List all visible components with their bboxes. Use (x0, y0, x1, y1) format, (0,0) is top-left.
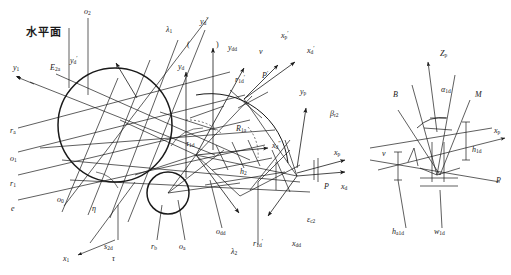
axis-xp-prime (244, 65, 278, 99)
label-e: e (11, 205, 15, 213)
label-xd-dprime: xd″ (272, 140, 281, 150)
label-paren-right: ) (216, 41, 219, 49)
label-tau-1d: τ1d (186, 140, 194, 148)
right-detail-group (370, 62, 505, 228)
spoke-3 (168, 155, 196, 193)
label-xdd: xdd (292, 240, 301, 248)
label-o0: o0 (57, 196, 64, 204)
label-h1d: h1d (472, 146, 482, 154)
spoke-1 (120, 120, 196, 155)
axis-arrows-group (116, 48, 345, 216)
label-P-prime: P′ (262, 70, 268, 80)
line-ra (18, 72, 230, 128)
label-ra: ra (10, 127, 16, 135)
label-yp: yp (300, 88, 306, 96)
axis-xp-right (378, 138, 505, 170)
label-P-left: P (324, 183, 329, 191)
label-ha1d: ha1d (392, 228, 404, 236)
technical-diagram: 水平面 o2 yd′ λ1 yd″ ( ) ydd y1 E2a yd r1d′… (0, 0, 511, 275)
left-construction-lines (16, 18, 310, 255)
axis-xd-mid (297, 172, 345, 176)
label-r1d-prime-top: r1d′ (235, 74, 245, 84)
axis-v-mid (297, 160, 345, 173)
label-eta: η (92, 205, 96, 213)
label-s2d: s2d (104, 243, 113, 251)
axis-xd-prime (244, 62, 295, 99)
label-v-top: v (259, 48, 263, 56)
circles-group (58, 68, 447, 214)
line-e (18, 145, 265, 200)
label-v-mid: v (382, 150, 386, 158)
label-odd: odd (216, 228, 226, 236)
arrow-y1 (17, 77, 34, 84)
label-lambda1: λ1 (166, 26, 172, 34)
label-oa: oa (179, 243, 185, 251)
line-o1 (18, 95, 245, 152)
label-beta-r2: βr2 (330, 110, 339, 118)
tick-r5 (424, 128, 452, 130)
label-xd-mid: xd (341, 183, 347, 191)
tick-r3 (408, 148, 414, 162)
label-lambda2: λ2 (231, 248, 237, 256)
axis-Zp (428, 62, 437, 132)
label-R1a: R1a (236, 125, 246, 133)
label-paren-left: ( (187, 41, 190, 49)
label-o2: o2 (84, 8, 91, 16)
label-tau: τ (112, 255, 115, 263)
label-ydd: ydd (228, 44, 237, 52)
label-h2: h2 (240, 168, 247, 176)
label-xd-prime: xd′ (307, 45, 315, 55)
tick-r4 (414, 148, 418, 166)
tick-r2 (437, 168, 460, 175)
label-P-right: P (496, 177, 501, 185)
axis-yd-prime (116, 63, 137, 98)
leader-rb (157, 205, 162, 240)
label-w1d: w1d (434, 228, 445, 236)
label-Zp: Zp (440, 50, 447, 58)
label-M: M (475, 91, 482, 99)
label-yd-dprime: yd″ (200, 16, 209, 26)
leader-ha1d (398, 180, 406, 228)
label-rb: rb (151, 243, 157, 251)
label-r1d-prime-bot: r1d′ (253, 238, 263, 248)
label-yd: yd (178, 63, 184, 71)
label-o1: o1 (10, 155, 17, 163)
label-yd-prime: yd′ (70, 55, 78, 65)
axis-epsilon-c2 (268, 176, 297, 216)
label-B: B (393, 91, 398, 99)
leader-s2d (90, 182, 135, 243)
center-construction (120, 90, 318, 196)
label-xp-left: xp (334, 149, 340, 157)
horizontal-plane-label: 水平面 (26, 27, 62, 38)
label-r1: r1 (10, 180, 16, 188)
line-M (440, 100, 470, 175)
label-epsilon-c2: εc2 (307, 216, 315, 224)
line-tooth-left (412, 85, 437, 175)
label-x1: x1 (63, 255, 69, 263)
tick-c (216, 145, 228, 170)
line-lambda1 (110, 40, 178, 218)
label-alpha-1d: α1d (441, 86, 451, 94)
line-E2a-chord (56, 74, 250, 160)
label-y1: y1 (13, 64, 19, 72)
line-P-right (370, 160, 500, 182)
tick-r1 (420, 168, 437, 175)
axis-yp (297, 108, 306, 168)
tick-m (250, 140, 290, 190)
label-E2a: E2a (50, 64, 60, 72)
leader-w1d (440, 190, 442, 228)
line-slant-b (128, 30, 205, 222)
label-xp-prime: xp′ (281, 30, 289, 40)
label-xp-right: xp (494, 127, 500, 135)
